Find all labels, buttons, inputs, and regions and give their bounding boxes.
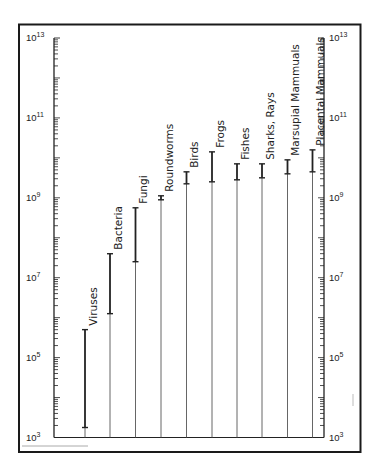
range-bar-bacteria: Bacteria bbox=[107, 206, 124, 437]
category-label: Fishes bbox=[239, 128, 251, 160]
y-tick-label: 107 bbox=[329, 271, 344, 283]
range-bar-viruses: Viruses bbox=[82, 287, 99, 437]
category-label: Marsupial Mammuals bbox=[290, 44, 302, 156]
category-label: Viruses bbox=[87, 287, 99, 325]
range-bar-fishes: Fishes bbox=[234, 128, 251, 438]
range-bar-roundworms: Roundworms bbox=[158, 124, 175, 438]
range-bar-fungi: Fungi bbox=[133, 175, 150, 437]
y-tick-label: 105 bbox=[329, 351, 344, 363]
category-label: Fungi bbox=[138, 175, 150, 203]
y-tick-label: 1013 bbox=[26, 31, 44, 43]
y-tick-label: 109 bbox=[329, 191, 344, 203]
y-tick-label: 103 bbox=[26, 431, 41, 443]
y-tick-label: 1013 bbox=[329, 31, 347, 43]
category-label: Placental Mammuals bbox=[315, 37, 327, 146]
y-tick-label: 103 bbox=[329, 431, 344, 443]
range-bars: VirusesBacteriaFungiRoundwormsBirdsFrogs… bbox=[82, 37, 327, 437]
left-axis-labels: 10131011109107105103 bbox=[26, 31, 44, 443]
range-bar-frogs: Frogs bbox=[209, 120, 226, 438]
category-label: Sharks, Rays bbox=[264, 92, 276, 159]
left-y-axis bbox=[54, 38, 60, 438]
range-bar-birds: Birds bbox=[184, 141, 201, 437]
chart-frame bbox=[19, 25, 361, 453]
y-tick-label: 1011 bbox=[26, 111, 44, 123]
range-bar-marsupial-mammuals: Marsupial Mammuals bbox=[285, 44, 302, 437]
category-label: Birds bbox=[189, 141, 201, 167]
category-label: Bacteria bbox=[112, 206, 124, 250]
y-tick-label: 105 bbox=[26, 351, 41, 363]
y-tick-label: 109 bbox=[26, 191, 41, 203]
right-axis-labels: 10131011109107105103 bbox=[329, 31, 347, 443]
y-tick-label: 107 bbox=[26, 271, 41, 283]
category-label: Frogs bbox=[214, 120, 226, 148]
range-chart: 10131011109107105103 1013101110910710510… bbox=[0, 0, 381, 471]
range-bar-sharks-rays: Sharks, Rays bbox=[259, 92, 276, 437]
y-tick-label: 1011 bbox=[329, 111, 347, 123]
category-label: Roundworms bbox=[163, 124, 175, 192]
